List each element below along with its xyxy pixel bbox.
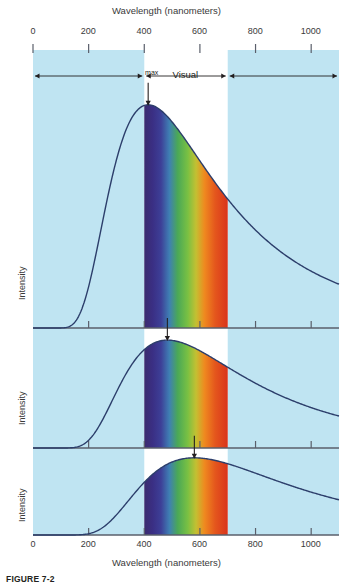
band-arrow-head [221, 74, 226, 79]
y-axis-label-5000: Intensity [17, 488, 27, 522]
visible-spectrum-fill-7000 [144, 105, 227, 328]
visible-spectrum-fill-5000 [144, 458, 227, 535]
band-region-ultraviolet [33, 50, 144, 535]
blackbody-radiation-figure: Wavelength (nanometers) 0200400600800100… [0, 0, 347, 582]
y-axis-label-6000: Intensity [17, 391, 27, 425]
band-region-infrared [228, 50, 339, 535]
y-axis-label-7000: Intensity [17, 266, 27, 300]
figure-graphics [0, 0, 347, 582]
visible-spectrum-fill-6000 [144, 340, 227, 448]
band-arrow-head [146, 74, 151, 79]
